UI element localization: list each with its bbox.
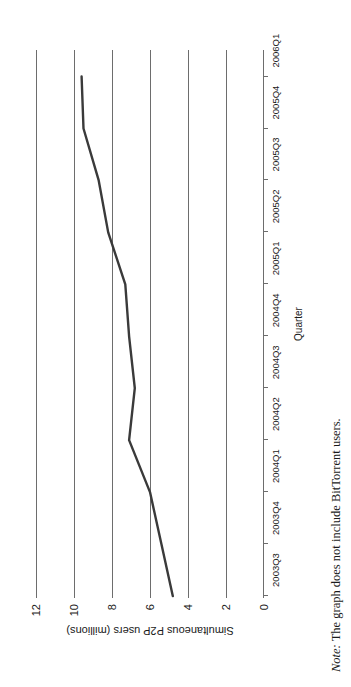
x-tick-label-2005Q4: 2005Q4 — [271, 85, 281, 119]
y-tick-label-2: 2 — [220, 604, 231, 610]
page-canvas: Simultaneous P2P users (millions) 024681… — [0, 0, 351, 687]
figure-note-label: Note: — [329, 644, 343, 672]
x-tick-label-2005Q3: 2005Q3 — [271, 137, 281, 171]
x-tick-2005Q2 — [264, 231, 268, 232]
x-tick-label-2003Q4: 2003Q4 — [271, 501, 281, 535]
y-tick-label-4: 4 — [182, 604, 193, 610]
x-tick-label-2004Q1: 2004Q1 — [271, 449, 281, 483]
chart-rotation-wrapper: Simultaneous P2P users (millions) 024681… — [26, 34, 326, 654]
figure-note-body: The graph does not include BitTorrent us… — [329, 418, 343, 644]
y-tick-label-0: 0 — [258, 604, 269, 610]
x-tick-label-2005Q2: 2005Q2 — [271, 189, 281, 223]
x-tick-2005Q1 — [264, 283, 268, 284]
y-tick-label-10: 10 — [68, 604, 79, 616]
note-rotation-wrapper: Note: The graph does not include BitTorr… — [330, 242, 350, 672]
x-tick-label-2004Q3: 2004Q3 — [271, 345, 281, 379]
y-tick-label-6: 6 — [144, 604, 155, 610]
plot-wrapper: 024681012 2003Q32003Q42004Q12004Q22004Q3… — [36, 50, 264, 598]
series-polyline — [81, 76, 172, 595]
figure-note: Note: The graph does not include BitTorr… — [330, 242, 344, 672]
x-tick-label-2004Q2: 2004Q2 — [271, 397, 281, 431]
x-tick-2004Q4 — [264, 335, 268, 336]
x-tick-label-2003Q3: 2003Q3 — [271, 553, 281, 587]
x-tick-2005Q4 — [264, 127, 268, 128]
chart-figure: Simultaneous P2P users (millions) 024681… — [26, 34, 326, 654]
x-tick-2005Q3 — [264, 179, 268, 180]
x-tick-2004Q2 — [264, 439, 268, 440]
y-tick-label-8: 8 — [106, 604, 117, 610]
plot-area: 024681012 2003Q32003Q42004Q12004Q22004Q3… — [36, 50, 264, 598]
x-tick-2006Q1 — [264, 75, 268, 76]
x-tick-2003Q4 — [264, 543, 268, 544]
x-tick-2003Q3 — [264, 595, 268, 596]
series-line-p2p-users — [36, 50, 264, 598]
x-axis-title: Quarter — [294, 50, 304, 598]
y-tick-label-12: 12 — [30, 604, 41, 616]
x-tick-label-2005Q1: 2005Q1 — [271, 241, 281, 275]
y-axis-title: Simultaneous P2P users (millions) — [36, 625, 264, 636]
x-tick-2004Q3 — [264, 387, 268, 388]
x-tick-label-2004Q4: 2004Q4 — [271, 293, 281, 327]
x-tick-label-2006Q1: 2006Q1 — [271, 33, 281, 67]
x-tick-2004Q1 — [264, 491, 268, 492]
